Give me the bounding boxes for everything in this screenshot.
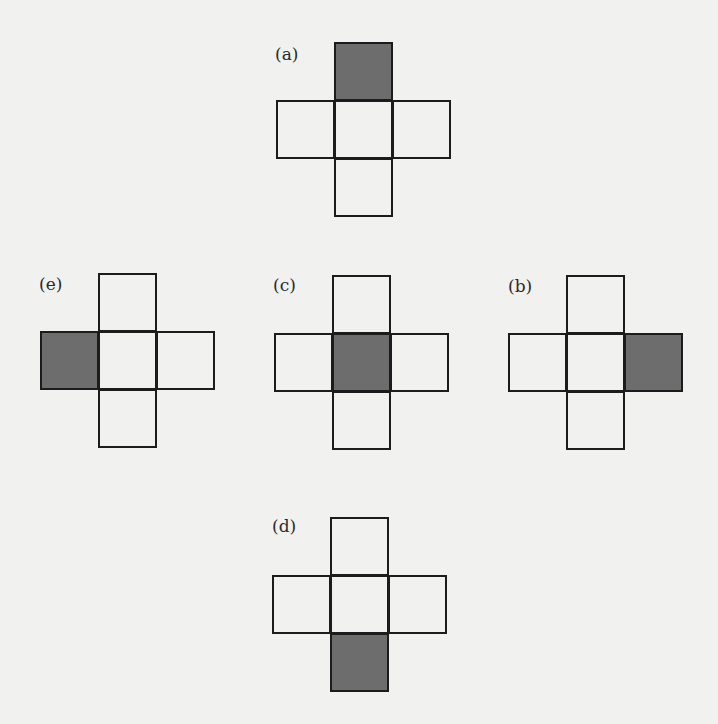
net-a-cell-left: [276, 100, 335, 159]
net-label-d: (d): [272, 516, 296, 536]
net-a-cell-right: [392, 100, 451, 159]
net-d-cell-left: [272, 575, 331, 634]
net-e-cell-left-shaded: [40, 331, 99, 390]
net-label-b: (b): [508, 276, 532, 296]
net-label-e: (e): [39, 274, 62, 294]
net-b-cell-right-shaded: [624, 333, 683, 392]
net-label-c: (c): [273, 275, 296, 295]
net-c-cell-right: [390, 333, 449, 392]
net-d-cell-center: [330, 575, 389, 634]
net-d-cell-right: [388, 575, 447, 634]
net-a-cell-center: [334, 100, 393, 159]
net-c-cell-bottom: [332, 391, 391, 450]
net-b-cell-left: [508, 333, 567, 392]
net-a-cell-top-shaded: [334, 42, 393, 101]
net-label-a: (a): [275, 44, 298, 64]
net-b-cell-bottom: [566, 391, 625, 450]
net-e-cell-right: [156, 331, 215, 390]
net-e-cell-center: [98, 331, 157, 390]
net-d-cell-top: [330, 517, 389, 576]
net-b-cell-center: [566, 333, 625, 392]
net-d-cell-bottom-shaded: [330, 633, 389, 692]
net-e-cell-top: [98, 273, 157, 332]
cube-nets-figure: (a) (e) (c) (b) (d): [0, 0, 718, 724]
net-e-cell-bottom: [98, 389, 157, 448]
net-c-cell-left: [274, 333, 333, 392]
net-c-cell-top: [332, 275, 391, 334]
net-a-cell-bottom: [334, 158, 393, 217]
net-c-cell-center-shaded: [332, 333, 391, 392]
net-b-cell-top: [566, 275, 625, 334]
